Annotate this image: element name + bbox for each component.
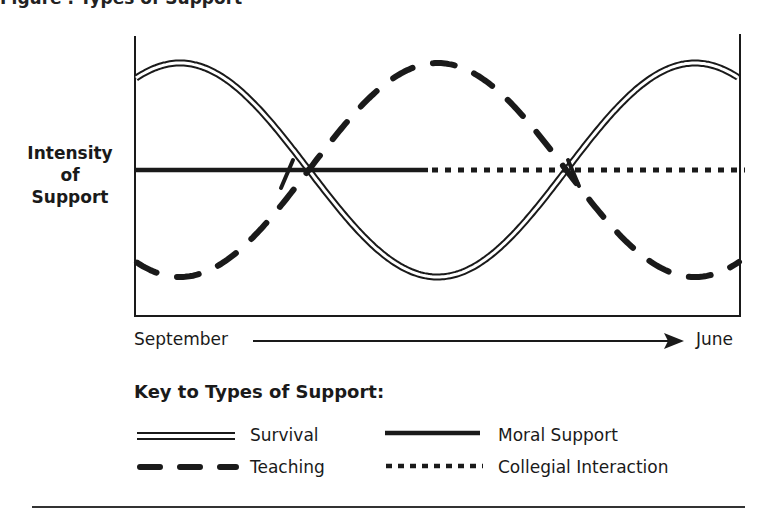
timeline-start-label: September [134,329,228,349]
timeline-end-label: June [696,329,733,349]
legend-swatch-survival [137,433,235,439]
crossing-marker-1 [281,160,293,188]
y-axis-label-line-1: Intensity [14,142,126,164]
legend-label-teaching: Teaching [250,457,325,477]
legend-label-survival: Survival [250,425,319,445]
legend-title: Key to Types of Support: [134,381,384,402]
y-axis-label-line-3: Support [14,186,126,208]
y-axis-label-line-2: of [14,164,126,186]
y-axis-label: Intensity of Support [14,142,126,208]
legend-label-moral-support: Moral Support [498,425,618,445]
chart-canvas [0,0,762,519]
legend-label-collegial-interaction: Collegial Interaction [498,457,668,477]
